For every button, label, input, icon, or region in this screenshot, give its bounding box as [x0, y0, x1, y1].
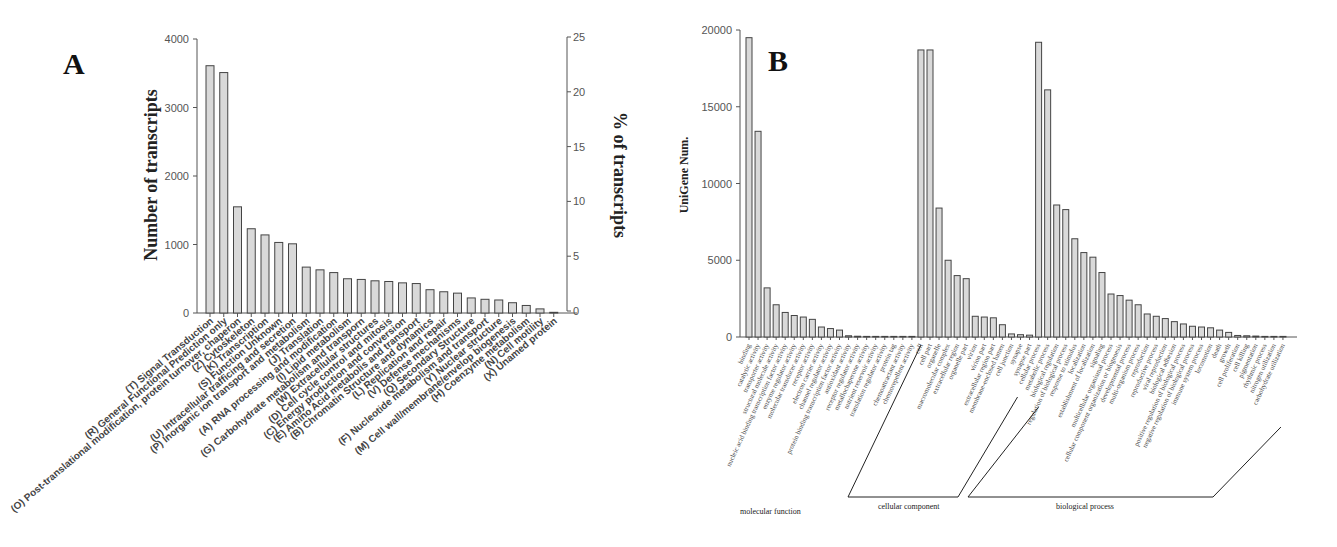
- bar: [990, 318, 996, 337]
- bar: [275, 242, 283, 313]
- bar: [864, 336, 870, 337]
- bar: [963, 279, 969, 337]
- bar: [1217, 330, 1223, 337]
- y-right-tick-label: 20: [573, 86, 585, 98]
- panel-a-chart: 010002000300040000510152025Number of tra…: [0, 0, 640, 547]
- bar: [900, 336, 906, 337]
- bar: [385, 281, 393, 313]
- bar: [1045, 90, 1051, 337]
- y-tick-label: 0: [726, 331, 732, 343]
- bar: [344, 279, 352, 313]
- bar: [972, 316, 978, 337]
- y-tick-label: 4000: [165, 33, 189, 45]
- bar: [1180, 324, 1186, 337]
- y-tick-label: 3000: [165, 102, 189, 114]
- y-tick-label: 5000: [708, 254, 732, 266]
- bar: [764, 288, 770, 337]
- bar: [1036, 42, 1042, 337]
- bar: [412, 284, 420, 313]
- bar: [873, 336, 879, 337]
- biological-process-bracket: [968, 407, 1281, 497]
- bar: [495, 300, 503, 313]
- bar: [302, 267, 310, 313]
- y-tick-label: 2000: [165, 170, 189, 182]
- bar: [1072, 239, 1078, 337]
- y-right-tick-label: 10: [573, 195, 585, 207]
- bar: [234, 207, 242, 313]
- bar: [1063, 210, 1069, 337]
- y-axis-title: UniGene Num.: [677, 137, 691, 214]
- bar: [954, 276, 960, 337]
- bar: [550, 312, 558, 313]
- bar: [1018, 335, 1024, 337]
- bar: [1235, 335, 1241, 337]
- bar: [918, 50, 924, 337]
- bar: [1226, 332, 1232, 337]
- bar: [782, 312, 788, 337]
- panel-b-chart: 05000100001500020000UniGene Num.bindingc…: [640, 0, 1337, 547]
- y-tick-label: 20000: [701, 24, 732, 36]
- bar: [467, 298, 475, 313]
- bar: [827, 329, 833, 337]
- bar: [791, 316, 797, 337]
- y-tick-label: 1000: [165, 239, 189, 251]
- bar: [945, 260, 951, 337]
- group-label-cellular-component: cellular component: [878, 502, 940, 511]
- y-tick-label: 10000: [701, 178, 732, 190]
- group-label-molecular-function: molecular function: [740, 507, 801, 516]
- bar: [1126, 300, 1132, 337]
- bar: [1108, 294, 1114, 337]
- y-tick-label: 0: [183, 307, 189, 319]
- bar: [837, 330, 843, 337]
- bar: [289, 244, 297, 313]
- bar: [927, 50, 933, 337]
- y-right-tick-label: 5: [573, 250, 579, 262]
- bar: [247, 229, 255, 313]
- bar: [755, 131, 761, 337]
- bar: [1099, 273, 1105, 337]
- bar: [1090, 257, 1096, 337]
- bar: [399, 283, 407, 313]
- bar: [818, 327, 824, 337]
- bar: [454, 293, 462, 313]
- category-label: (O) Post-translational modification, pro…: [8, 315, 242, 514]
- bar: [206, 66, 214, 313]
- bar: [1162, 319, 1168, 337]
- bar: [1153, 316, 1159, 337]
- bar: [1171, 322, 1177, 337]
- bar: [1008, 334, 1014, 337]
- y-tick-label: 15000: [701, 101, 732, 113]
- bar: [1253, 336, 1259, 337]
- bar: [1280, 336, 1286, 337]
- bar: [330, 273, 338, 313]
- bar: [426, 290, 434, 313]
- panel-b: B 05000100001500020000UniGene Num.bindin…: [640, 0, 1337, 547]
- y-right-tick-label: 15: [573, 141, 585, 153]
- bar: [882, 336, 888, 337]
- bar: [809, 319, 815, 337]
- bar: [1244, 336, 1250, 337]
- bar: [999, 325, 1005, 337]
- bar: [936, 208, 942, 337]
- bar: [440, 292, 448, 313]
- bar: [846, 336, 852, 337]
- bar: [855, 336, 861, 337]
- y-axis-right-title: % of transcripts: [610, 112, 630, 238]
- group-label-biological-process: biological process: [1056, 502, 1114, 511]
- bar: [1271, 336, 1277, 337]
- panel-a: A 010002000300040000510152025Number of t…: [0, 0, 640, 547]
- bar: [316, 270, 324, 313]
- bar: [800, 317, 806, 337]
- bar: [773, 305, 779, 337]
- bar: [1189, 326, 1195, 337]
- bar: [891, 336, 897, 337]
- bar: [536, 309, 544, 313]
- bar: [1208, 328, 1214, 337]
- bar: [1027, 335, 1033, 337]
- y-right-tick-label: 0: [573, 305, 579, 317]
- bar: [909, 336, 915, 337]
- bar: [1054, 205, 1060, 337]
- bar: [1081, 253, 1087, 337]
- y-right-tick-label: 25: [573, 31, 585, 43]
- bar: [981, 317, 987, 337]
